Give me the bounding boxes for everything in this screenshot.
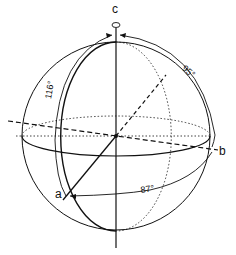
a-axis-front <box>63 136 116 200</box>
gamma-arc-arrowhead <box>120 33 126 38</box>
a-axis-back <box>116 75 166 136</box>
gamma-arc <box>120 35 215 147</box>
origin-point <box>114 134 118 138</box>
beta-arc-arrowhead <box>106 33 112 38</box>
b-axis <box>8 121 218 150</box>
meridian-front <box>61 42 116 231</box>
sphere-diagram <box>0 0 236 255</box>
label-b: b <box>219 145 226 157</box>
label-c: c <box>112 3 118 15</box>
label-a: a <box>55 188 62 200</box>
meridian-back <box>116 42 171 231</box>
c-axis-rotation-icon <box>112 23 120 28</box>
angle-alpha-label: 87° <box>140 184 155 195</box>
